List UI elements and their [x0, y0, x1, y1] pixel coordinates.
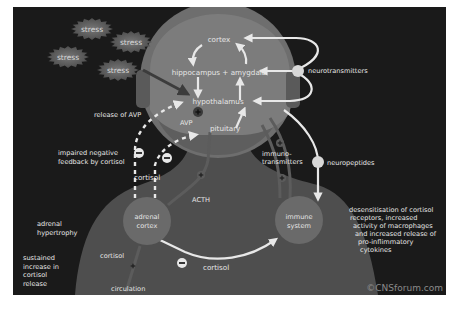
label-immunotransmitters-1: immuno-	[262, 150, 292, 158]
label-pituitary: pituitary	[210, 124, 241, 133]
plus-symbol	[193, 107, 203, 117]
stress-burst: stress	[97, 59, 139, 81]
copyright-text: ©CNSforum.com	[366, 283, 443, 293]
hpa-axis-diagram: stressstressstressstress	[0, 0, 459, 309]
label-cortex-organ: cortex	[137, 222, 158, 230]
label-cortex: cortex	[208, 35, 231, 44]
label-hypothalamus: hypothalamus	[192, 97, 244, 106]
annotation-hypertrophy-2: hypertrophy	[37, 229, 78, 237]
annotation-desens-4: and increased release of	[355, 230, 437, 238]
annotation-desens-6: cytokines	[360, 246, 392, 254]
label-immune: immune	[285, 213, 312, 221]
label-cortisol-left: cortisol	[100, 252, 124, 260]
label-circulation: circulation	[111, 285, 145, 293]
label-avp: AVP	[180, 119, 193, 127]
annotation-impaired-2: feedback by cortisol	[58, 158, 125, 166]
stress-label: stress	[57, 53, 79, 62]
annotation-sustained-2: increase in	[23, 263, 59, 271]
annotation-sustained-3: cortisol	[23, 271, 47, 279]
ear-left	[136, 70, 150, 108]
plus-symbol	[197, 171, 205, 179]
label-cortisol-bottom: cortisol	[203, 263, 229, 272]
plus-symbol	[278, 174, 286, 182]
label-neurotransmitters: neurotransmitters	[308, 67, 368, 75]
label-neuropeptides: neuropeptides	[327, 159, 375, 167]
adrenal-cortex-circle	[123, 197, 171, 245]
stress-burst: stress	[110, 31, 152, 53]
label-acth: ACTH	[192, 196, 210, 204]
annotation-release-avp: release of AVP	[94, 111, 141, 119]
label-system: system	[287, 222, 311, 230]
minus-symbol	[134, 148, 144, 158]
stress-burst: stress	[47, 46, 89, 68]
stress-label: stress	[107, 66, 129, 75]
annotation-sustained-1: sustained	[23, 254, 55, 262]
plus-symbol	[276, 139, 284, 147]
stress-label: stress	[81, 25, 103, 34]
annotation-desens-1: desensitisation of cortisol	[349, 206, 434, 214]
stress-label: stress	[120, 38, 142, 47]
label-hippocampus-amygdala: hippocampus + amygdala	[172, 68, 266, 77]
annotation-desens-5: pro-inflimmatory	[358, 238, 414, 246]
minus-symbol	[177, 258, 187, 268]
annotation-hypertrophy-1: adrenal	[37, 220, 62, 228]
neurotransmitters-node	[292, 65, 304, 77]
annotation-desens-2: receptors, increased	[350, 214, 417, 222]
neuropeptides-node	[312, 156, 324, 168]
label-adrenal: adrenal	[135, 213, 160, 221]
label-cortisol-upper: cortisol	[134, 173, 160, 182]
annotation-desens-3: activity of macrophages	[353, 222, 433, 230]
annotation-impaired-1: impaired negative	[58, 149, 118, 157]
label-immunotransmitters-2: transmitters	[262, 158, 303, 166]
minus-symbol	[162, 153, 172, 163]
annotation-sustained-4: release	[23, 280, 47, 288]
stress-burst: stress	[71, 18, 113, 40]
